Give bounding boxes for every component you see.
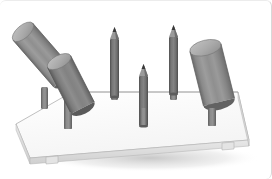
image-canvas: 3D rendered scene of cylindrical objects… — [0, 0, 272, 179]
support-post — [64, 112, 72, 129]
platform-notch-left — [46, 156, 58, 164]
pencil-tip-icon — [142, 64, 146, 69]
pencil-body — [110, 39, 119, 97]
support-post — [208, 108, 216, 126]
support-post — [140, 108, 147, 125]
pencil-tip-icon — [172, 25, 176, 30]
three-d-scene — [0, 0, 272, 179]
platform-notch-right — [222, 142, 234, 150]
pencil-tip-icon — [113, 27, 117, 32]
pencil-base — [169, 92, 178, 95]
pencil-right — [169, 25, 178, 96]
pencil-body — [169, 37, 178, 94]
pencil-left — [110, 27, 119, 99]
support-post — [41, 87, 48, 109]
pencil-base — [110, 95, 119, 98]
